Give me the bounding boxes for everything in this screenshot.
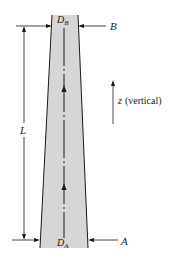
section-a-left-arrow-icon (34, 238, 40, 242)
length-arrow-top-icon (22, 26, 26, 32)
section-a-label: A (120, 235, 128, 247)
z-axis-label: z(vertical) (117, 95, 162, 107)
length-arrow-bottom-icon (22, 234, 26, 240)
z-axis-arrow-icon (111, 80, 115, 86)
section-a-right-arrow-icon (88, 238, 94, 242)
section-b-label: B (110, 20, 117, 32)
length-label: L (19, 124, 26, 136)
tapered-tube-diagram: B A L DB DA z(vertical) (0, 0, 173, 262)
